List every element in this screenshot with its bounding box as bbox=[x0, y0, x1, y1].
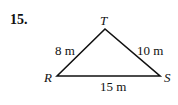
vertex-label-t: T bbox=[100, 14, 107, 27]
vertex-label-r: R bbox=[44, 71, 52, 84]
vertex-label-s: S bbox=[164, 71, 171, 84]
side-label-rt: 8 m bbox=[55, 44, 75, 57]
side-label-ts: 10 m bbox=[137, 44, 163, 57]
side-label-rs: 15 m bbox=[100, 80, 126, 93]
